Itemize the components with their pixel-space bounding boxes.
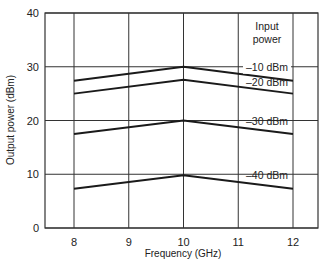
series-label: –20 dBm: [246, 76, 288, 88]
y-tick-label: 40: [27, 7, 39, 19]
y-tick-label: 10: [27, 168, 39, 180]
series-label: –40 dBm: [246, 169, 288, 181]
y-tick-label: 0: [33, 222, 39, 234]
x-tick-label: 11: [233, 236, 244, 248]
series-labels: –10 dBm–20 dBm–30 dBm–40 dBm: [243, 61, 291, 181]
x-axis-label: Frequency (GHz): [145, 248, 222, 259]
series-label: –30 dBm: [246, 115, 288, 127]
x-tick-label: 10: [177, 236, 189, 248]
series-label: –10 dBm: [246, 61, 288, 73]
x-tick-label: 9: [126, 236, 132, 248]
x-tick-label: 8: [71, 236, 77, 248]
x-axis-ticks: 89101112: [71, 236, 299, 248]
x-tick-label: 12: [287, 236, 299, 248]
y-axis-ticks: 010203040: [27, 7, 39, 234]
y-tick-label: 30: [27, 61, 39, 73]
legend-title-line1: Input: [255, 20, 278, 32]
legend-title-line2: power: [253, 33, 282, 45]
y-tick-label: 20: [27, 115, 39, 127]
output-power-chart: 010203040 89101112 –10 dBm–20 dBm–30 dBm…: [0, 0, 327, 273]
y-axis-label: Output power (dBm): [5, 75, 16, 165]
